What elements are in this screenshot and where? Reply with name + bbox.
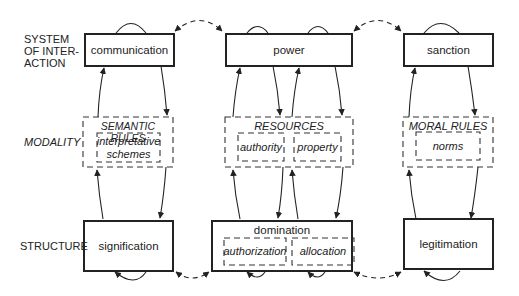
box-sanction: sanction xyxy=(403,33,494,67)
modality-title: RESOURCES xyxy=(225,120,353,132)
dashed-arc-dom-leg xyxy=(354,272,401,278)
row-label-line: ACTION xyxy=(24,57,79,69)
row-label-line: OF INTER- xyxy=(24,45,79,57)
row-label-system-of-interaction: SYSTEM OF INTER- ACTION xyxy=(24,33,79,69)
box-legitimation: legitimation xyxy=(403,218,494,270)
modality-item-property: property xyxy=(294,133,341,161)
modality-item-interpretative-schemes: interpretative schemes xyxy=(97,133,160,162)
domination-title: domination xyxy=(254,224,310,236)
structure-item-allocation: allocation xyxy=(292,238,354,265)
modality-title: MORAL RULES xyxy=(403,120,493,132)
loop-sanction xyxy=(424,24,459,34)
modality-item-norms: norms xyxy=(416,132,480,160)
loop-allocation xyxy=(308,272,325,277)
box-power: power xyxy=(225,33,353,67)
loop-legitimation xyxy=(424,271,460,281)
row-label-structure: STRUCTURE xyxy=(20,240,88,252)
loop-communication xyxy=(116,24,146,34)
structure-item-authorization: authorization xyxy=(224,238,286,265)
box-communication: communication xyxy=(84,33,175,67)
row-label-modality: MODALITY xyxy=(24,136,80,148)
loop-signification xyxy=(115,272,146,280)
dashed-arc-comm-power xyxy=(175,21,222,32)
modality-item-authority: authority xyxy=(238,133,284,161)
loop-authorization xyxy=(247,272,265,277)
row-label-line: SYSTEM xyxy=(24,33,79,45)
dashed-arc-sig-dom xyxy=(176,272,209,278)
item-line: schemes xyxy=(106,148,150,161)
box-signification: signification xyxy=(83,220,174,272)
item-line: interpretative xyxy=(97,135,161,148)
dashed-arc-power-sanction xyxy=(354,21,401,32)
